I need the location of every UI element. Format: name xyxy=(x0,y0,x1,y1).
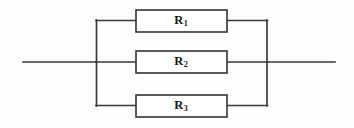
resistor-subscript-r3: 3 xyxy=(183,104,188,113)
resistor-subscript-r1: 1 xyxy=(183,19,188,28)
resistor-subscript-r2: 2 xyxy=(183,60,188,69)
circuit-diagram: R1 R2 R3 xyxy=(0,0,354,128)
resistor-label-r1: R1 xyxy=(174,14,188,28)
resistor-label-r3: R3 xyxy=(174,99,188,113)
resistor-label-r2: R2 xyxy=(174,55,188,69)
resistor-symbol-r1: R xyxy=(174,13,183,27)
resistor-symbol-r3: R xyxy=(174,98,183,112)
resistor-symbol-r2: R xyxy=(174,54,183,68)
